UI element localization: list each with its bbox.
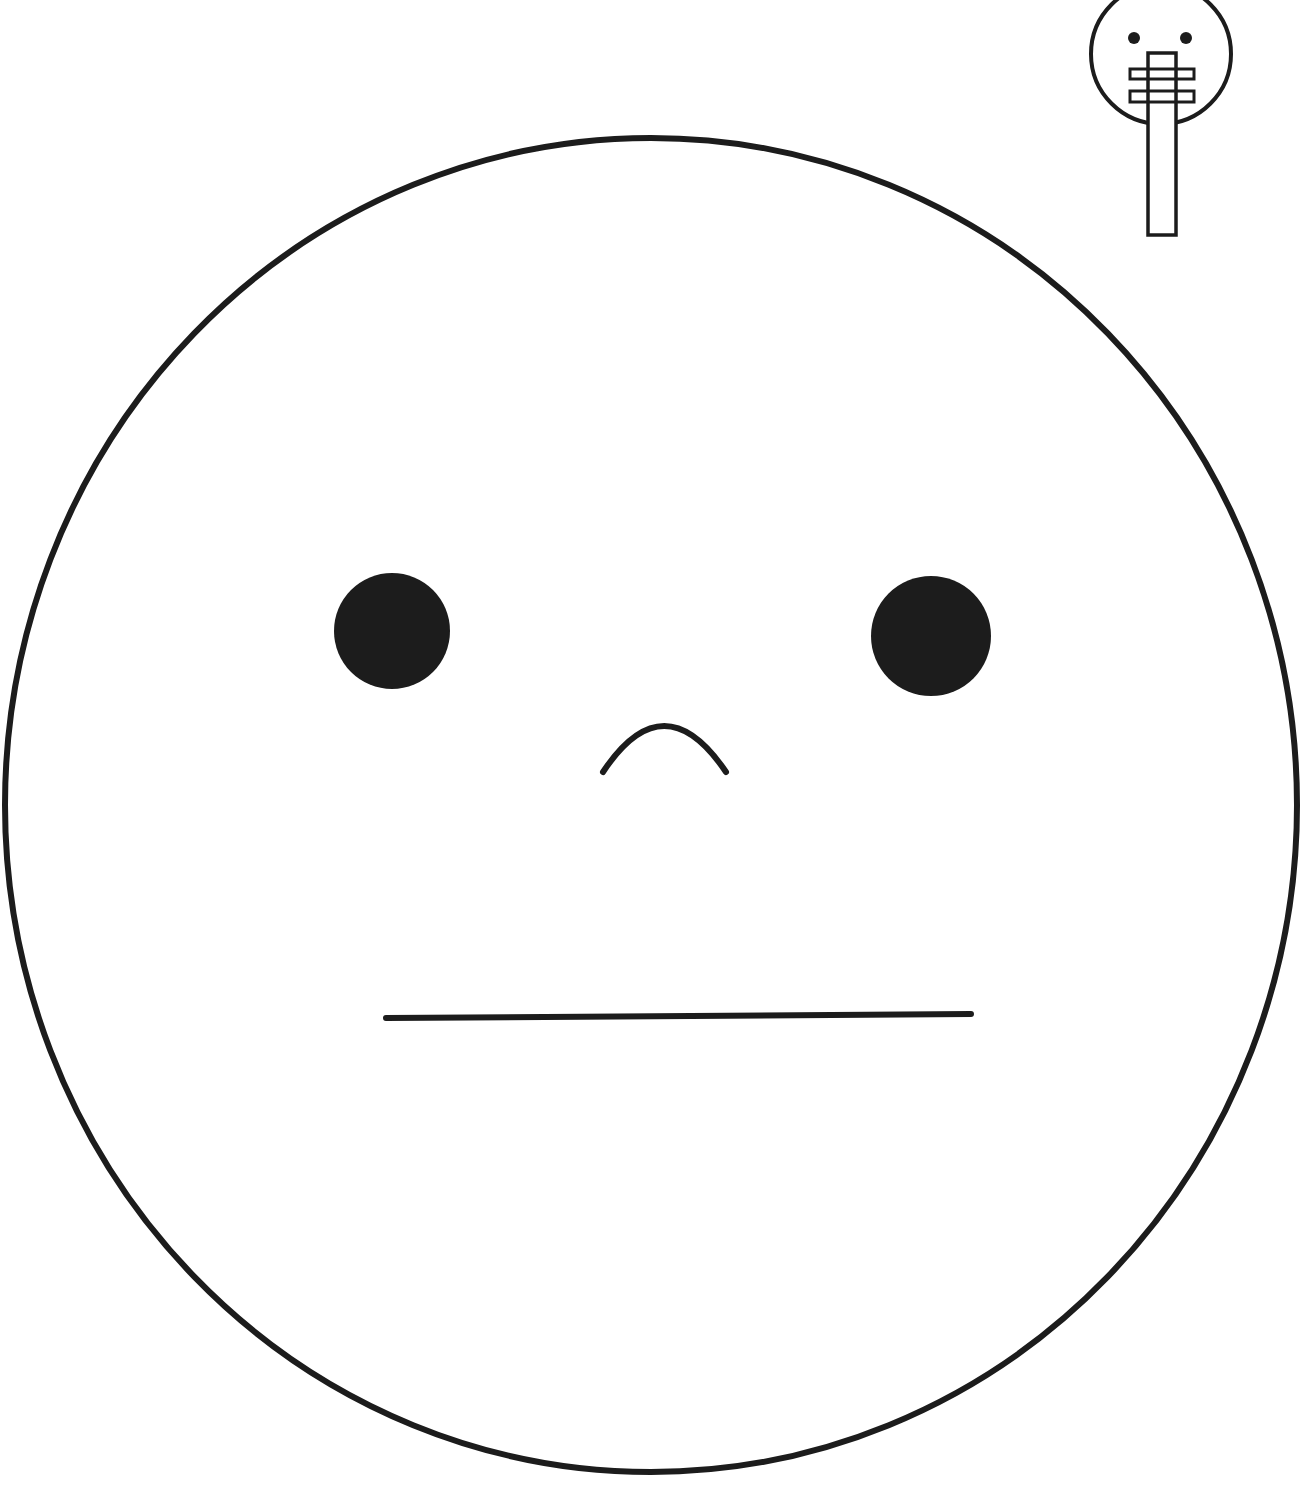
worksheet-canvas: Neutral face worksheet Large neutral fac… [0,0,1304,1487]
neutral-face [5,138,1297,1472]
left-eye [334,573,450,689]
drawing [0,0,1304,1487]
icon-right-eye [1180,32,1192,44]
icon-left-eye [1128,32,1140,44]
face-outline [5,138,1297,1472]
right-eye [871,576,991,696]
face-with-instrument-icon [1091,0,1231,235]
nose-arc [603,726,726,772]
mouth-line [386,1014,971,1018]
